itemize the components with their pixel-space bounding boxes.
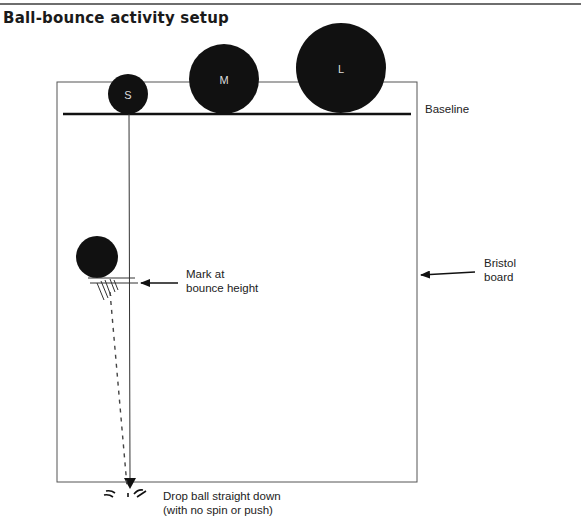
svg-text:L: L — [338, 63, 344, 75]
drop-path-line — [129, 114, 130, 478]
drop-arrowhead — [124, 478, 136, 489]
board-label-line1: Bristol — [484, 256, 516, 270]
bounced-ball — [76, 236, 118, 278]
bounce-height-marks — [88, 278, 138, 300]
rebound-dashed-path — [110, 292, 127, 486]
mark-label-line1: Mark at — [186, 267, 224, 281]
mark-label-line2: bounce height — [186, 281, 258, 295]
board-label-line2: board — [484, 270, 513, 284]
svg-text:S: S — [124, 89, 131, 101]
board-arrow — [421, 272, 475, 275]
drop-label-line2: (with no spin or push) — [163, 503, 273, 517]
svg-text:M: M — [219, 74, 228, 86]
impact-marks — [104, 490, 146, 497]
baseline-label: Baseline — [425, 102, 469, 116]
ball-large: L — [296, 23, 386, 113]
drop-label-line1: Drop ball straight down — [163, 489, 281, 503]
ball-medium: M — [189, 44, 259, 114]
ball-small: S — [108, 74, 148, 114]
